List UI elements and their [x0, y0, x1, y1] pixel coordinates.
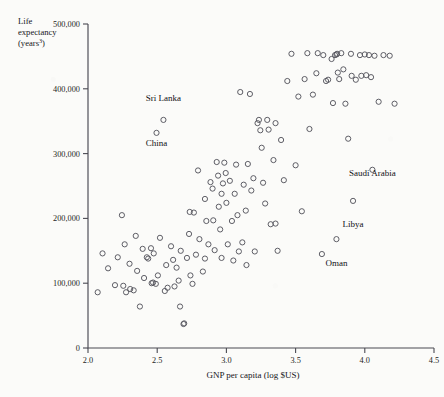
data-point [376, 99, 381, 104]
data-point [212, 248, 217, 253]
data-point [220, 181, 225, 186]
data-point [349, 73, 354, 78]
data-point [165, 285, 170, 290]
y-axis-tick-label: 400,000 [53, 85, 80, 94]
data-point [219, 255, 224, 260]
data-point [202, 196, 207, 201]
data-point [263, 201, 268, 206]
data-point [95, 290, 100, 295]
y-axis-tick-label: 0 [76, 344, 80, 353]
data-point [210, 186, 215, 191]
data-point [296, 94, 301, 99]
data-point [268, 222, 273, 227]
y-axis-tick-label: 300,000 [53, 150, 80, 159]
data-point [200, 269, 205, 274]
x-axis-tick-label: 4.5 [429, 356, 439, 365]
data-point [146, 256, 151, 261]
data-point [208, 180, 213, 185]
data-point [368, 75, 373, 80]
data-point [310, 92, 315, 97]
point-annotation: Saudi Arabia [349, 168, 396, 178]
data-point [195, 168, 200, 173]
data-point [260, 180, 265, 185]
data-point [144, 255, 149, 260]
data-point [341, 67, 346, 72]
y-axis-title-line2: expectancy [18, 27, 57, 37]
data-point [299, 209, 304, 214]
data-point [350, 198, 355, 203]
data-point [133, 233, 138, 238]
data-point [164, 262, 169, 267]
data-point [128, 286, 133, 291]
x-axis-tick-label: 2.0 [83, 356, 93, 365]
data-point [131, 288, 136, 293]
data-point [171, 257, 176, 262]
data-point [154, 130, 159, 135]
data-point [265, 117, 270, 122]
data-point [359, 73, 364, 78]
data-points-layer [95, 51, 397, 327]
data-point [206, 242, 211, 247]
data-point [271, 157, 276, 162]
data-point [151, 251, 156, 256]
data-point [127, 261, 132, 266]
data-point [176, 278, 181, 283]
y-axis-title-paren: ) [42, 38, 45, 48]
data-point [241, 182, 246, 187]
x-axis-title: GNP per capita (log $US) [206, 370, 299, 380]
data-point [223, 170, 228, 175]
data-point [259, 145, 264, 150]
point-annotation: China [146, 138, 168, 148]
data-point [235, 213, 240, 218]
data-point [137, 304, 142, 309]
data-point [275, 248, 280, 253]
data-point [105, 266, 110, 271]
data-point [231, 258, 236, 263]
data-point [289, 51, 294, 56]
data-point [321, 53, 326, 58]
data-point [193, 252, 198, 257]
data-point [334, 237, 339, 242]
data-point [285, 78, 290, 83]
data-point [293, 163, 298, 168]
data-point [115, 255, 120, 260]
y-axis-title-units: (years [18, 38, 40, 48]
data-point [178, 248, 183, 253]
point-annotation: Sri Lanka [146, 93, 181, 103]
data-point [238, 89, 243, 94]
scatter-plot-figure: Life expectancy (years3) 0100,000200,000… [0, 0, 444, 397]
data-point [122, 242, 127, 247]
data-point [112, 283, 117, 288]
x-axis-tick-label: 3.5 [290, 356, 300, 365]
point-annotation: Oman [325, 258, 347, 268]
data-point [204, 218, 209, 223]
data-point [184, 255, 189, 260]
data-point [161, 117, 166, 122]
data-point [177, 304, 182, 309]
data-point [387, 53, 392, 58]
data-point [100, 251, 105, 256]
data-point [245, 161, 250, 166]
y-axis-title-line1: Life [18, 16, 32, 26]
data-point [305, 51, 310, 56]
chart-canvas: Life expectancy (years3) 0100,000200,000… [0, 0, 444, 397]
data-point [372, 53, 377, 58]
axes-group: 0100,000200,000300,000400,000500,0002.02… [53, 20, 439, 365]
data-point [190, 281, 195, 286]
data-point [330, 100, 335, 105]
data-point [258, 128, 263, 133]
data-point [335, 70, 340, 75]
data-point [148, 246, 153, 251]
point-annotations-layer: Sri LankaChinaSaudi ArabiaLibyaOman [146, 93, 396, 269]
x-axis-tick-label: 3.0 [221, 356, 231, 365]
data-point [214, 159, 219, 164]
data-point [247, 91, 252, 96]
data-point [346, 136, 351, 141]
data-point [244, 262, 249, 267]
data-point [252, 249, 257, 254]
data-point [225, 242, 230, 247]
data-point [357, 53, 362, 58]
y-axis-title-line3: (years3) [18, 37, 45, 48]
data-point [155, 273, 160, 278]
data-point [202, 256, 207, 261]
